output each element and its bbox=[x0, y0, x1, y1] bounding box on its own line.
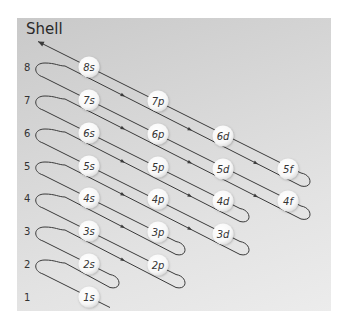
orbital-2p: 2p bbox=[148, 255, 169, 276]
orbital-label: 1s bbox=[83, 292, 95, 303]
orbital-6d: 6d bbox=[213, 126, 234, 147]
orbital-5f: 5f bbox=[278, 159, 299, 180]
direction-arrow-icon bbox=[120, 159, 125, 163]
orbital-7s: 7s bbox=[79, 90, 100, 111]
orbital-label: 2p bbox=[152, 260, 165, 271]
orbital-label: 4s bbox=[83, 193, 95, 204]
orbital-4d: 4d bbox=[213, 191, 234, 212]
orbital-label: 4f bbox=[283, 196, 294, 207]
orbital-label: 5d bbox=[217, 164, 230, 175]
orbital-label: 3d bbox=[217, 229, 230, 240]
direction-arrow-icon bbox=[187, 160, 192, 164]
orbital-5d: 5d bbox=[213, 159, 234, 180]
orbital-6p: 6p bbox=[148, 124, 169, 145]
orbital-label: 7s bbox=[83, 95, 95, 106]
orbital-label: 7p bbox=[152, 96, 165, 107]
orbital-3p: 3p bbox=[148, 222, 169, 243]
shell-labels: 12345678 bbox=[24, 62, 30, 303]
orbital-4s: 4s bbox=[79, 188, 100, 209]
direction-arrow-icon bbox=[187, 226, 192, 230]
shell-label-5: 5 bbox=[24, 161, 30, 172]
orbital-5p: 5p bbox=[148, 157, 169, 178]
orbital-5s: 5s bbox=[79, 156, 100, 177]
shell-label-8: 8 bbox=[24, 62, 30, 73]
orbital-3d: 3d bbox=[213, 224, 234, 245]
orbital-3s: 3s bbox=[79, 221, 100, 242]
direction-arrow-icon bbox=[120, 224, 125, 228]
orbital-label: 3s bbox=[83, 226, 95, 237]
orbital-label: 2s bbox=[83, 259, 95, 270]
direction-arrow-icon bbox=[187, 193, 192, 197]
orbital-4f: 4f bbox=[278, 191, 299, 212]
direction-arrow-icon bbox=[253, 193, 258, 197]
orbital-label: 3p bbox=[152, 227, 165, 238]
orbital-label: 4d bbox=[217, 196, 230, 207]
direction-arrow-icon bbox=[120, 257, 125, 261]
shell-label-3: 3 bbox=[24, 226, 30, 237]
filling-path bbox=[36, 42, 310, 308]
orbital-label: 4p bbox=[152, 194, 165, 205]
orbital-label: 5p bbox=[152, 162, 165, 173]
aufbau-diagram: 12345678 1s2s2p3s3p3d4s4p4d4f5s5p5d5f6s6… bbox=[0, 0, 346, 328]
orbital-7p: 7p bbox=[148, 91, 169, 112]
orbital-label: 6s bbox=[83, 128, 95, 139]
shell-label-6: 6 bbox=[24, 128, 30, 139]
direction-arrow-icon bbox=[120, 93, 125, 97]
orbital-label: 5s bbox=[83, 161, 95, 172]
shell-label-2: 2 bbox=[24, 259, 30, 270]
direction-arrow-icon bbox=[120, 192, 125, 196]
orbital-2s: 2s bbox=[79, 254, 100, 275]
direction-arrow-icon bbox=[187, 127, 192, 131]
orbital-label: 6d bbox=[217, 131, 230, 142]
orbital-6s: 6s bbox=[79, 123, 100, 144]
orbital-8s: 8s bbox=[79, 57, 100, 78]
shell-label-7: 7 bbox=[24, 95, 30, 106]
shell-label-1: 1 bbox=[24, 292, 30, 303]
orbitals: 1s2s2p3s3p3d4s4p4d4f5s5p5d5f6s6p6d7s7p8s bbox=[79, 57, 299, 308]
orbital-1s: 1s bbox=[79, 287, 100, 308]
direction-arrow-icon bbox=[120, 126, 125, 130]
orbital-label: 5f bbox=[283, 164, 294, 175]
orbital-label: 6p bbox=[152, 129, 165, 140]
shell-label-4: 4 bbox=[24, 193, 30, 204]
direction-arrow-icon bbox=[253, 160, 258, 164]
orbital-4p: 4p bbox=[148, 189, 169, 210]
orbital-label: 8s bbox=[83, 62, 95, 73]
